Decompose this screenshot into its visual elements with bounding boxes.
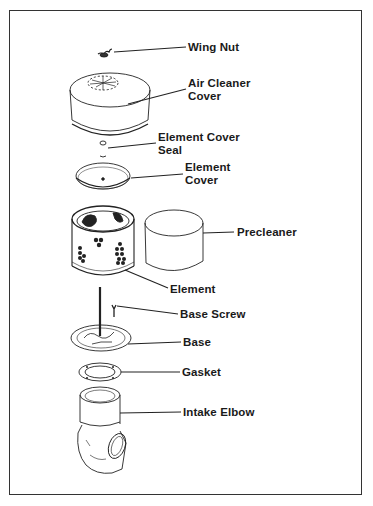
label-element: Element — [170, 283, 215, 296]
label-line: Base — [183, 336, 211, 349]
leader-precleaner — [203, 232, 234, 233]
leader-base — [128, 342, 181, 344]
label-line: Air Cleaner — [188, 77, 250, 90]
label-element-cover-seal: Element Cover Seal — [158, 131, 240, 157]
label-line: Element Cover — [158, 131, 240, 144]
label-wing-nut: Wing Nut — [188, 41, 239, 54]
leader-air-cleaner-cover — [128, 89, 186, 104]
label-base-screw: Base Screw — [180, 308, 246, 321]
leader-intake-elbow — [120, 412, 181, 413]
label-line: Base Screw — [180, 308, 246, 321]
intake-elbow-part — [78, 387, 129, 473]
label-gasket: Gasket — [182, 366, 221, 379]
exploded-parts-illustration — [0, 0, 373, 506]
gasket-part — [79, 363, 121, 381]
label-element-cover: Element Cover — [185, 161, 230, 187]
label-line: Intake Elbow — [183, 406, 255, 419]
label-line: Element — [170, 283, 215, 296]
label-line: Element — [185, 161, 230, 174]
element-part — [72, 206, 134, 275]
label-line: Gasket — [182, 366, 221, 379]
base-screw-part — [112, 305, 116, 317]
label-base: Base — [183, 336, 211, 349]
air-cleaner-cover-part — [70, 73, 150, 135]
label-line: Precleaner — [237, 226, 297, 239]
label-line: Wing Nut — [188, 41, 239, 54]
label-line: Cover — [188, 90, 250, 103]
precleaner-part — [145, 210, 203, 271]
label-line: Cover — [185, 174, 230, 187]
label-line: Seal — [158, 144, 240, 157]
label-precleaner: Precleaner — [237, 226, 297, 239]
leader-element-cover — [131, 174, 183, 178]
leader-element-cover-seal — [108, 143, 156, 148]
label-intake-elbow: Intake Elbow — [183, 406, 255, 419]
leader-base-screw — [117, 306, 178, 314]
label-air-cleaner-cover: Air Cleaner Cover — [188, 77, 250, 103]
leader-element — [125, 270, 168, 288]
leader-wing-nut — [114, 47, 186, 52]
element-cover-part — [76, 163, 130, 189]
element-cover-seal-part — [100, 141, 106, 157]
wing-nut-part — [98, 49, 112, 57]
